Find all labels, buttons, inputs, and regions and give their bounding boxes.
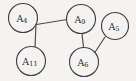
graph-node-a4[interactable]: A4 [9, 4, 38, 33]
graph-node-a9[interactable]: A9 [67, 5, 96, 34]
graph-edge-a4-a11 [35, 24, 36, 48]
graph-node-a5[interactable]: A5 [102, 13, 129, 40]
graph-canvas: A4A9A5A11A6 [0, 0, 136, 81]
graph-edge-a9-a6 [82, 34, 84, 48]
graph-edge-a4-a9 [37, 20, 68, 25]
graph-edge-a5-a6 [95, 37, 106, 53]
graph-diagram-figure: A4A9A5A11A6 [0, 0, 136, 81]
graph-node-a6[interactable]: A6 [70, 48, 99, 77]
graph-node-a11[interactable]: A11 [17, 47, 46, 76]
node-layer: A4A9A5A11A6 [9, 4, 129, 77]
